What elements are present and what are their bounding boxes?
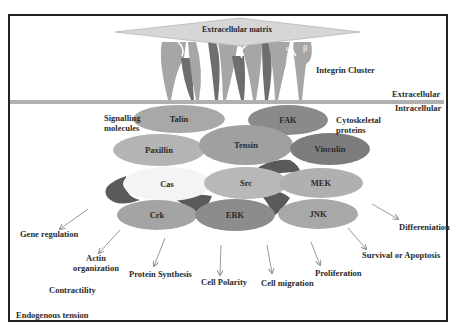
cytoskeletal-proteins-label-line1: Cytoskeletal xyxy=(336,115,381,125)
contractility-label: Contractility xyxy=(49,285,96,295)
alpha-subunit-label: α xyxy=(286,43,291,53)
protein-paxillin: Paxillin xyxy=(134,145,184,155)
protein-cas: Cas xyxy=(147,179,187,189)
signalling-molecules-label-line2: molecules xyxy=(104,123,139,133)
protein-src: Src xyxy=(226,178,266,188)
outcome-survival-or-apoptosis: Survival or Apoptosis xyxy=(362,250,440,260)
beta-subunit-label: β xyxy=(303,43,308,53)
outcome-differentiation: Differeniation xyxy=(399,222,450,232)
intracellular-label: Intracellular xyxy=(395,103,441,113)
outcome-cell-polarity: Cell Polarity xyxy=(201,277,247,287)
cytoskeletal-proteins-label-line2: proteins xyxy=(336,125,366,135)
outcome-cell-migration: Cell migration xyxy=(261,278,314,288)
protein-mek: MEK xyxy=(301,178,341,188)
extracellular-matrix-label: Extracellular matrix xyxy=(202,25,272,35)
outcome-gene-regulation: Gene regulation xyxy=(20,229,78,239)
outcome-actin-organization-line2: organization xyxy=(66,263,126,273)
protein-vinculin: Vinculin xyxy=(305,144,355,154)
protein-fak: FAK xyxy=(268,115,308,125)
outcome-actin-organization-line1: Actin xyxy=(66,253,126,263)
outcome-protein-synthesis: Protein Synthesis xyxy=(129,269,192,279)
endogenous-tension-label: Endogenous tension xyxy=(16,310,89,320)
protein-erk: ERK xyxy=(215,210,255,220)
signalling-molecules-label-line1: Signalling xyxy=(104,113,140,123)
cell-membrane xyxy=(10,100,444,104)
extracellular-label: Extracellular xyxy=(392,89,440,99)
protein-talin: Talin xyxy=(159,114,199,124)
integrin-cluster-label: Integrin Cluster xyxy=(316,65,375,75)
protein-tensin: Tensin xyxy=(223,140,269,150)
protein-crk: Crk xyxy=(137,210,177,220)
outcome-proliferation: Proliferation xyxy=(315,268,362,278)
protein-jnk: JNK xyxy=(298,209,338,219)
